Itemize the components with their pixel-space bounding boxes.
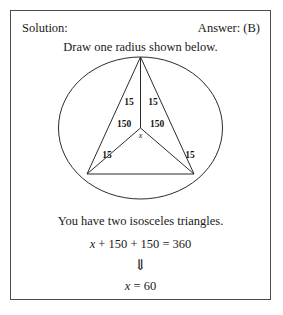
chord-top-to-bottom-left — [87, 57, 141, 174]
implies-arrow-icon: ⇓ — [11, 257, 270, 273]
equation-rest-1: + 150 + 150 = 360 — [95, 237, 191, 251]
diagram-svg: 15 15 150 150 x 15 15 — [11, 55, 270, 207]
solution-label: Solution: — [22, 19, 68, 37]
answer-label: Answer: (B) — [198, 19, 260, 37]
conclusion-text: You have two isosceles triangles. — [11, 213, 270, 229]
angle-label-center-left: 150 — [117, 119, 132, 129]
angle-label-center-x: x — [138, 131, 143, 140]
angle-label-bottom-left: 15 — [102, 150, 112, 160]
equation-rest-2: = 60 — [130, 279, 156, 293]
angle-label-top-left: 15 — [124, 97, 134, 107]
problem-frame: Solution: Answer: (B) Draw one radius sh… — [10, 10, 271, 300]
angle-label-bottom-right: 15 — [185, 150, 195, 160]
radius-line-bottom-left — [87, 128, 141, 174]
page-root: Solution: Answer: (B) Draw one radius sh… — [0, 0, 283, 315]
equation-line-1: x + 150 + 150 = 360 — [11, 236, 270, 252]
angle-label-top-right: 15 — [148, 97, 158, 107]
circle-diagram: 15 15 150 150 x 15 15 — [11, 55, 270, 207]
header-row: Solution: Answer: (B) — [11, 19, 270, 37]
equation-line-2: x = 60 — [11, 278, 270, 294]
instruction-text: Draw one radius shown below. — [11, 39, 270, 55]
angle-label-center-right: 150 — [150, 119, 165, 129]
